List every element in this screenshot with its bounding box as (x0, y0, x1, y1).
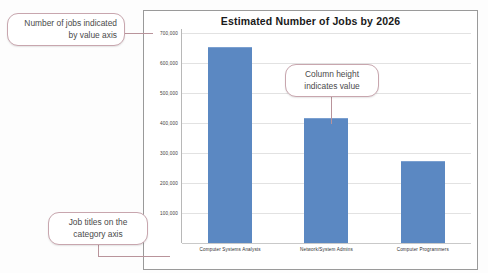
chart-screenshot: Estimated Number of Jobs by 2026 700,000… (0, 0, 488, 273)
ytick-label-300000: 300,000 (160, 150, 178, 155)
chart-container: Estimated Number of Jobs by 2026 700,000… (143, 10, 478, 270)
category-label-1: Computer Systems Analysts (200, 247, 261, 252)
bar-computer-programmers[interactable] (401, 161, 445, 243)
callout-column-height: Column height indicates value (285, 64, 379, 97)
bar-slot-3: Computer Programmers (375, 33, 471, 243)
ytick-label-400000: 400,000 (160, 120, 178, 125)
bar-slot-1: Computer Systems Analysts (182, 33, 278, 243)
leader-line-value-axis (124, 33, 153, 34)
category-axis-line (182, 243, 471, 244)
bar-computer-systems-analysts[interactable] (208, 47, 252, 243)
ytick-label-700000: 700,000 (160, 31, 178, 36)
chart-title: Estimated Number of Jobs by 2026 (144, 15, 477, 27)
ytick-label-100000: 100,000 (160, 210, 178, 215)
category-label-2: Network/System Admins (300, 247, 353, 252)
callout-value-axis: Number of jobs indicated by value axis (7, 13, 125, 46)
ytick-label-600000: 600,000 (160, 60, 178, 65)
ytick-label-500000: 500,000 (160, 90, 178, 95)
callout-category-axis: Job titles on the category axis (48, 212, 148, 245)
ytick-label-200000: 200,000 (160, 180, 178, 185)
bar-network-system-admins[interactable] (304, 118, 348, 244)
leader-line-category-axis-horizontal (98, 256, 170, 257)
category-label-3: Computer Programmers (397, 247, 449, 252)
